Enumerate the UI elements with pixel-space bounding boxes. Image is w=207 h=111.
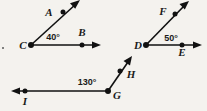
point-h-label: H [126,68,136,80]
point-f-dot [173,12,178,17]
ray-de-arrowhead [193,42,202,49]
geometry-figure: A B C 40° F E D [0,0,207,111]
diagram-angle-acb: A B C 40° [19,0,101,51]
scan-speck [2,47,4,49]
vertex-g-dot [105,88,111,94]
point-a-label: A [44,6,52,18]
vertex-g-label: G [113,89,121,101]
point-e-label: E [177,46,185,58]
diagram-angle-fde: F E D 50° [133,1,202,58]
point-i-dot [23,89,28,94]
point-b-label: B [77,26,85,38]
ray-cb-arrowhead [92,42,101,49]
angle-measure-hgi: 130° [78,77,97,87]
vertex-c-dot [28,42,34,48]
diagram-angle-hgi: H I G 130° [11,56,136,107]
ray-gi-arrowhead [11,88,20,95]
point-b-dot [80,43,85,48]
point-i-label: I [22,95,28,107]
angle-measure-acb: 40° [46,32,60,42]
ray-gh-line [108,62,128,91]
point-h-dot [118,69,123,74]
vertex-c-label: C [19,39,27,51]
point-a-dot [61,10,66,15]
vertex-d-dot [143,42,149,48]
angle-measure-fde: 50° [164,33,178,43]
diagram-canvas: A B C 40° F E D [0,0,207,111]
vertex-d-label: D [133,39,142,51]
point-f-label: F [158,5,167,17]
ray-gh-arrowhead [124,56,133,65]
